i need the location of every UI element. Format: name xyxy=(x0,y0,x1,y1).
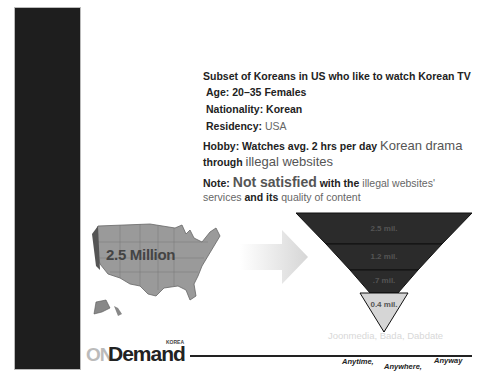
residency-value: USA xyxy=(265,120,287,132)
tagline-anyway: Anyway xyxy=(434,356,462,365)
age-value: 20–35 Females xyxy=(232,86,306,98)
heading-text: Subset of Koreans in US who like to watc… xyxy=(203,70,471,82)
nationality-label: Nationality: xyxy=(206,103,263,115)
residency-line: Residency: USA xyxy=(206,120,287,133)
note-text-2: illegal websites' xyxy=(362,177,435,189)
source-attribution: Joonmedia, Bada, Dabdate xyxy=(328,330,443,341)
hobby-text: Watches avg. 2 hrs per day xyxy=(242,140,377,152)
tagline-anywhere: Anywhere, xyxy=(384,362,422,371)
note-text-5: quality of content xyxy=(281,191,360,203)
slide-heading: Subset of Koreans in US who like to watc… xyxy=(203,70,471,83)
footer-divider xyxy=(190,355,472,357)
age-line: Age: 20–35 Females xyxy=(206,86,306,99)
funnel-level-3: .7 mil. xyxy=(354,276,414,285)
note-line: Note: Not satisfied with the illegal web… xyxy=(203,174,435,192)
decorative-sidebar xyxy=(14,7,81,370)
nationality-line: Nationality: Korean xyxy=(206,103,302,116)
hobby-label: Hobby: xyxy=(203,140,239,152)
hobby-through: through xyxy=(203,156,243,168)
logo-demand: Demand xyxy=(108,342,185,366)
tagline-anytime: Anytime, xyxy=(342,357,374,366)
ondemand-logo: ON Demand KOREA xyxy=(86,340,196,366)
usa-map-icon xyxy=(90,220,250,320)
note-text-3: services xyxy=(203,191,242,203)
hobby-line-2: through illegal websites xyxy=(203,154,333,170)
age-label: Age: xyxy=(206,86,229,98)
nationality-value: Korean xyxy=(266,103,302,115)
note-line-2: services and its quality of content xyxy=(203,191,361,204)
market-size-label: 2.5 Million xyxy=(106,246,175,263)
note-label: Note: xyxy=(203,177,230,189)
funnel-chart: 2.5 mil. 1.2 mil. .7 mil. 0.4 mil. xyxy=(296,210,472,340)
hobby-emphasis-illegal-websites: illegal websites xyxy=(246,154,333,169)
note-text-1: with the xyxy=(320,177,360,189)
residency-label: Residency: xyxy=(206,120,262,132)
funnel-level-2: 1.2 mil. xyxy=(354,252,414,261)
funnel-level-4: 0.4 mil. xyxy=(354,300,414,309)
hobby-line: Hobby: Watches avg. 2 hrs per day Korean… xyxy=(203,138,462,154)
logo-korea: KOREA xyxy=(166,339,184,345)
funnel-level-1: 2.5 mil. xyxy=(354,224,414,233)
note-emphasis: Not satisfied xyxy=(233,174,317,190)
note-text-4: and its xyxy=(244,191,278,203)
hobby-emphasis-korean-drama: Korean drama xyxy=(380,138,462,153)
